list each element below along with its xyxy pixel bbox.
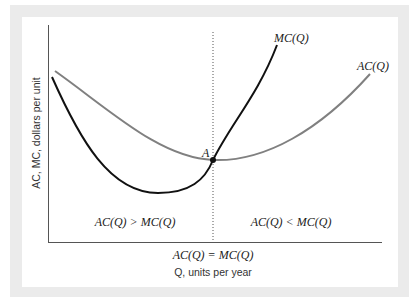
y-axis-title: AC, MC, dollars per unit	[30, 77, 42, 189]
mc-curve	[52, 45, 277, 193]
equality-label: AC(Q) = MC(Q)	[172, 248, 254, 262]
mc-curve-label: MC(Q)	[273, 31, 309, 45]
point-a-marker	[210, 157, 216, 163]
cost-curves-chart: A MC(Q) AC(Q) AC(Q) > MC(Q) AC(Q) < MC(Q…	[0, 0, 409, 303]
point-a-label: A	[201, 146, 210, 160]
x-axis-title: Q, units per year	[174, 266, 252, 278]
right-region-label: AC(Q) < MC(Q)	[250, 215, 332, 229]
ac-curve-label: AC(Q)	[356, 59, 389, 73]
left-region-label: AC(Q) > MC(Q)	[94, 215, 176, 229]
